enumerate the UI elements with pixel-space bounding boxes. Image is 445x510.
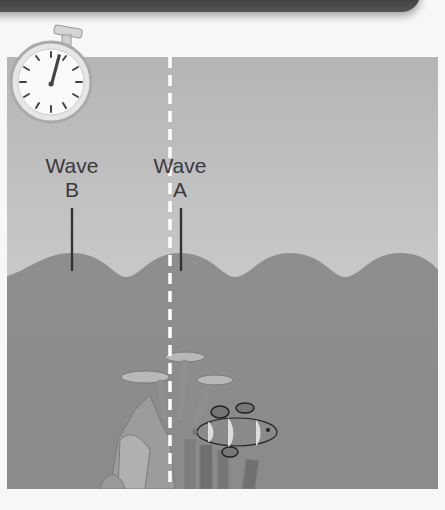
label-wave-a: Wave A <box>145 154 215 202</box>
label-wave-b: Wave B <box>37 154 107 202</box>
label-wave-a-word: Wave <box>145 154 215 178</box>
label-wave-b-word: Wave <box>37 154 107 178</box>
label-wave-a-letter: A <box>145 178 215 202</box>
label-wave-b-letter: B <box>37 178 107 202</box>
stopwatch-icon <box>6 24 96 124</box>
